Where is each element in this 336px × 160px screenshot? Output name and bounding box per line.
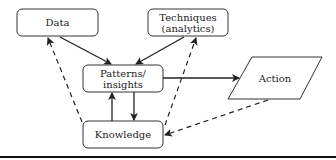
edge-knowledge-to-techniques bbox=[165, 38, 196, 125]
action-label-text: Action bbox=[259, 73, 292, 84]
data-label: Data bbox=[17, 9, 98, 36]
patterns-label-line1: Patterns/ bbox=[100, 68, 146, 79]
patterns-label-line2: insights bbox=[103, 79, 143, 90]
data-label-text: Data bbox=[46, 17, 70, 28]
techniques-label-line1: Techniques bbox=[159, 12, 216, 23]
edge-data-to-patterns bbox=[60, 37, 111, 64]
techniques-label-line2: (analytics) bbox=[162, 23, 215, 34]
action-label: Action bbox=[240, 57, 310, 99]
patterns-label: Patterns/ insights bbox=[83, 65, 163, 92]
techniques-label: Techniques (analytics) bbox=[148, 9, 228, 36]
edge-techniques-to-patterns bbox=[136, 37, 184, 64]
edge-knowledge-to-data bbox=[48, 38, 82, 122]
knowledge-label: Knowledge bbox=[83, 121, 163, 148]
edge-action-to-knowledge bbox=[165, 100, 268, 135]
knowledge-label-text: Knowledge bbox=[95, 129, 151, 140]
